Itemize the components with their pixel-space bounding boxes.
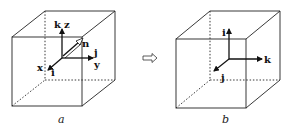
label-j-b: j — [220, 72, 225, 83]
vector-n — [63, 42, 79, 56]
hollow-right-arrow-icon — [143, 54, 157, 63]
label-z: z — [64, 19, 70, 30]
label-k-b: k — [264, 54, 272, 65]
figure: k z n j y x i a i k j b — [0, 0, 293, 129]
label-k: k — [54, 19, 62, 30]
label-y: y — [93, 59, 101, 70]
label-i-b: i — [222, 27, 226, 38]
labels-a: k z n j y x i — [37, 19, 101, 78]
label-x: x — [37, 62, 44, 73]
label-i: i — [51, 67, 55, 78]
label-n: n — [82, 38, 90, 49]
label-j: j — [93, 47, 98, 58]
axis-j — [214, 59, 229, 71]
caption-a: a — [58, 113, 65, 126]
axes-a — [48, 29, 93, 70]
caption-b: b — [222, 113, 229, 126]
figure-svg: k z n j y x i a i k j b — [0, 0, 293, 129]
